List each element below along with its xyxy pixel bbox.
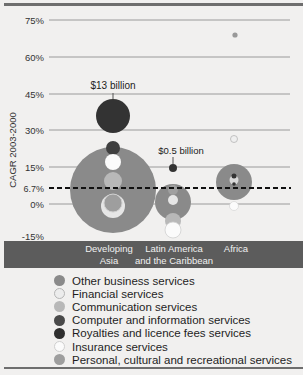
bubbles-africa <box>216 32 252 210</box>
category-asia-line1: Developing <box>85 243 133 254</box>
tick-0: 0% <box>30 199 44 210</box>
legend-label: Royalties and licence fees services <box>72 327 251 339</box>
tick-minus-15: -15% <box>22 231 45 242</box>
bubbles-developing-asia <box>70 93 156 233</box>
bubble-personal <box>168 185 178 195</box>
swatch-icon <box>54 341 65 352</box>
bubble-royalties <box>232 182 236 186</box>
legend-label: Financial services <box>72 288 163 300</box>
swatch-icon <box>54 354 65 365</box>
bubble-computer <box>106 141 120 155</box>
bubbles-latin-america <box>155 157 191 238</box>
bubble-insurance <box>165 222 181 238</box>
tick-45: 45% <box>25 89 45 100</box>
tick-30: 30% <box>25 125 45 136</box>
swatch-icon <box>54 275 65 286</box>
legend-item-computer: Computer and information services <box>54 314 292 327</box>
bubble-royalties <box>169 164 177 172</box>
annotation-asia: $13 billion <box>90 80 135 91</box>
tick-60: 60% <box>25 52 45 63</box>
swatch-icon <box>54 328 65 339</box>
bubble-financial <box>168 195 178 205</box>
legend-label: Computer and information services <box>72 314 250 326</box>
category-latam-line1: Latin America <box>145 243 203 254</box>
legend-item-insurance: Insurance services <box>54 340 292 353</box>
legend-label: Other business services <box>72 275 195 287</box>
swatch-icon <box>54 288 65 299</box>
legend-item-financial: Financial services <box>54 287 292 300</box>
legend-label: Communication services <box>72 301 197 313</box>
swatch-icon <box>54 301 65 312</box>
tick-75: 75% <box>25 15 45 26</box>
bubble-insurance <box>105 154 121 170</box>
category-africa: Africa <box>224 243 249 254</box>
bubble-computer <box>232 174 237 179</box>
legend-item-communication: Communication services <box>54 300 292 313</box>
legend-label: Personal, cultural and recreational serv… <box>72 354 292 366</box>
annotation-latam: $0.5 billion <box>158 145 203 156</box>
y-axis-label: CAGR 2003-2000 <box>7 112 18 188</box>
bubble-personal <box>104 194 122 212</box>
legend-item-royalties: Royalties and licence fees services <box>54 327 292 340</box>
tick-6-7: 6.7% <box>23 184 44 194</box>
category-asia-line2: Asia <box>100 255 119 266</box>
bottom-rule <box>4 367 303 369</box>
y-axis-ticks: 75% 60% 45% 30% 15% 6.7% 0% -15% <box>22 15 45 243</box>
legend-item-other-business: Other business services <box>54 274 292 287</box>
tick-15: 15% <box>25 162 45 173</box>
swatch-icon <box>54 315 65 326</box>
bubble-financial <box>231 136 238 143</box>
bubble-insurance <box>230 202 239 211</box>
legend-item-personal: Personal, cultural and recreational serv… <box>54 353 292 366</box>
category-latam-line2: and the Caribbean <box>135 255 213 266</box>
bubble-personal <box>232 32 237 37</box>
bubble-royalties <box>96 99 130 133</box>
legend-label: Insurance services <box>72 341 168 353</box>
legend: Other business services Financial servic… <box>54 274 292 366</box>
